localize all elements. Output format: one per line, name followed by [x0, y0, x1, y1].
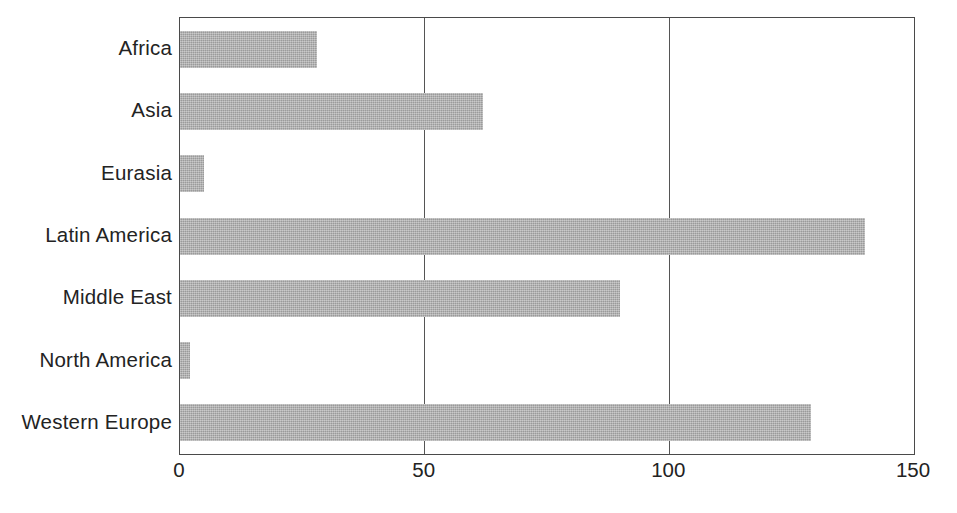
category-label-north-america: North America: [0, 350, 172, 371]
bar-africa: [180, 31, 317, 68]
xtick-label-0: 0: [173, 460, 184, 481]
category-label-latin-america: Latin America: [0, 225, 172, 246]
bar-asia: [180, 93, 483, 130]
bar-chart: Africa Asia Eurasia Latin America Middle…: [0, 0, 957, 513]
category-label-middle-east: Middle East: [0, 287, 172, 308]
bar-middle-east: [180, 280, 620, 317]
xtick-label-100: 100: [651, 460, 685, 481]
bar-latin-america: [180, 218, 865, 255]
xtick-label-50: 50: [412, 460, 435, 481]
category-label-western-europe: Western Europe: [0, 412, 172, 433]
bar-eurasia: [180, 155, 204, 192]
plot-area: [179, 17, 915, 455]
category-axis: Africa Asia Eurasia Latin America Middle…: [0, 17, 172, 455]
bar-western-europe: [180, 404, 811, 441]
category-label-asia: Asia: [0, 100, 172, 121]
category-label-africa: Africa: [0, 38, 172, 59]
xtick-label-150: 150: [896, 460, 930, 481]
bar-north-america: [180, 342, 190, 379]
value-axis: 0 50 100 150: [0, 460, 957, 500]
category-label-eurasia: Eurasia: [0, 163, 172, 184]
